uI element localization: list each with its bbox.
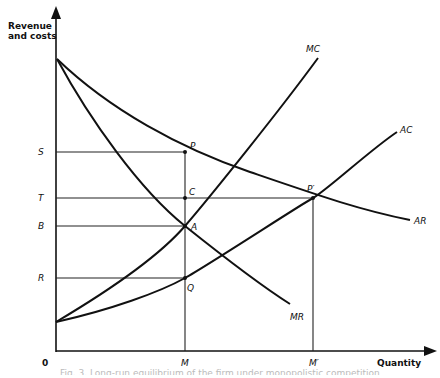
y-tick-r: R [38,273,44,283]
point-label: P′ [307,184,314,194]
curve-label-mr: MR [290,312,304,322]
point-dot [183,150,187,154]
y-axis-arrow-icon [51,6,61,19]
origin-label: 0 [42,358,48,368]
point-labels: PCAQP′ [183,141,315,293]
curve-mr [57,59,290,304]
curve-ac [56,132,397,322]
curve-label-mc: MC [306,44,321,54]
x-axis-arrow-icon [424,346,437,356]
figure-caption: Fig. 3. Long-run equilibrium of the firm… [60,369,380,375]
point-label: A [190,222,197,232]
point-label: Q [187,283,194,293]
x-axis-label: Quantity [377,358,421,368]
x-tick-0: M [181,358,189,368]
point-dot [311,196,315,200]
curve-label-ar: AR [413,216,426,226]
point-dot [183,224,187,228]
curve-label-ac: AC [399,125,413,135]
y-axis-label-line1: Revenue [8,21,52,31]
y-tick-t: T [38,193,45,203]
guide-lines [56,152,313,351]
point-label: C [189,187,196,197]
revenue-cost-chart: Revenue and costs Quantity 0 ARMRMCAC ST… [0,0,440,378]
y-tick-b: B [38,221,44,231]
point-label: P [190,141,196,151]
curve-labels: ARMRMCAC [290,44,426,322]
y-tick-s: S [38,147,44,157]
point-dot [183,276,187,280]
y-axis-label-line2: and costs [8,31,57,41]
curve-ar [57,59,410,220]
curves [56,58,410,322]
point-dot [183,196,187,200]
x-tick-1: M′ [309,358,319,368]
